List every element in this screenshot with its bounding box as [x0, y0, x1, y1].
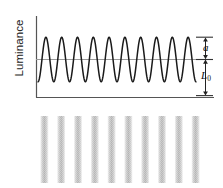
- mean-luminance-label: L0: [201, 70, 211, 81]
- mean-luminance-subscript: 0: [207, 74, 211, 83]
- grating-svg: [36, 116, 204, 183]
- grating-bar: [107, 116, 116, 183]
- grating-bar: [191, 116, 200, 183]
- luminance-grating-figure: Luminance a L0: [0, 0, 223, 188]
- grating-pattern: [36, 116, 204, 183]
- grating-bar: [57, 116, 66, 183]
- amplitude-label: a: [203, 42, 209, 53]
- plot-axes: [36, 16, 214, 98]
- grating-bar: [90, 116, 99, 183]
- grating-bar: [124, 116, 133, 183]
- grating-bar: [174, 116, 183, 183]
- luminance-profile-plot: [0, 0, 223, 116]
- grating-bar: [40, 116, 49, 183]
- grating-bar: [74, 116, 83, 183]
- grating-bar: [141, 116, 150, 183]
- grating-bar: [158, 116, 167, 183]
